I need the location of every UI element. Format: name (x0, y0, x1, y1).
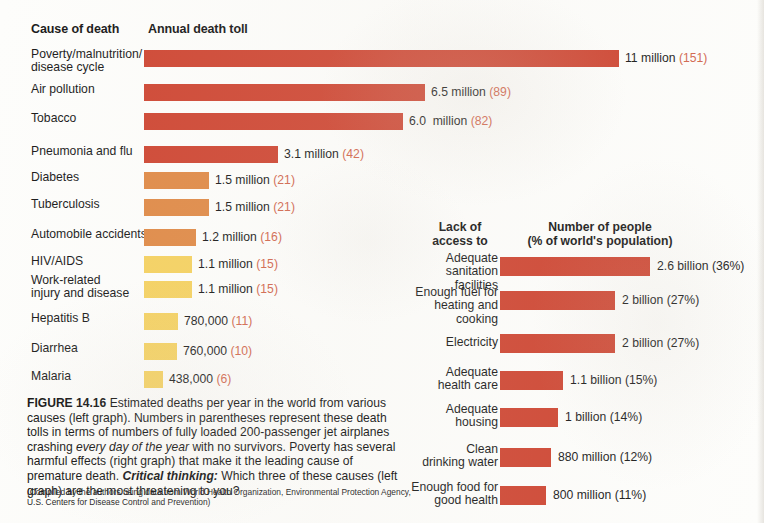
right-chart-value-label: 1.1 billion (15%) (570, 373, 657, 387)
right-chart-bar (500, 486, 546, 505)
left-chart-value-label: 760,000 (10) (183, 344, 252, 358)
value-amount: 1.5 million (215, 173, 273, 187)
value-amount: 1.1 million (198, 282, 256, 296)
right-chart-category-label: Adequate housing (410, 403, 498, 430)
left-chart-value-label: 11 million (151) (625, 51, 707, 65)
left-chart-bar (144, 343, 177, 360)
value-parenthetical: (15) (256, 282, 278, 296)
right-chart-category-label: Enough food for good health (410, 481, 498, 508)
right-chart-category-label: Clean drinking water (410, 443, 498, 470)
value-amount: 1.2 million (202, 230, 260, 244)
left-chart-value-label: 1.5 million (21) (215, 200, 295, 214)
value-parenthetical: (82) (471, 114, 493, 128)
value-parenthetical: (6) (216, 372, 231, 386)
left-chart-value-label: 1.5 million (21) (215, 173, 295, 187)
left-chart-value-label: 1.1 million (15) (198, 282, 278, 296)
value-parenthetical: (151) (679, 51, 707, 65)
left-chart-bar (144, 371, 163, 388)
value-parenthetical: (10) (230, 344, 252, 358)
left-chart-bar (144, 113, 403, 130)
right-chart-header-value: Number of people (% of world's populatio… (506, 221, 694, 248)
value-amount: 11 million (625, 51, 679, 65)
right-chart-bar (500, 408, 558, 427)
left-chart-value-label: 3.1 million (42) (284, 147, 364, 161)
value-amount: 760,000 (183, 344, 230, 358)
right-chart-value-label: 880 million (12%) (558, 450, 652, 464)
left-chart-bar (144, 50, 619, 67)
caption-emphasis: every day of the year (76, 440, 189, 454)
left-chart-header-category: Cause of death (31, 22, 119, 36)
right-chart-bar (500, 291, 615, 310)
value-parenthetical: (15) (256, 257, 278, 271)
left-chart-bar (144, 84, 425, 101)
left-chart-value-label: 6.5 million (89) (431, 85, 511, 99)
left-chart-value-label: 438,000 (6) (169, 372, 231, 386)
critical-thinking-label: Critical thinking: (122, 469, 217, 483)
value-amount: 780,000 (184, 314, 231, 328)
left-chart-value-label: 1.2 million (16) (202, 230, 282, 244)
right-chart-value-label: 800 million (11%) (553, 488, 646, 502)
left-chart-bar (144, 256, 192, 273)
value-parenthetical: (16) (260, 230, 282, 244)
figure-number: FIGURE 14.16 (27, 396, 106, 410)
left-chart-bar (144, 199, 209, 216)
left-chart-header-value: Annual death toll (148, 22, 248, 36)
left-chart-value-label: 6.0 million (82) (409, 114, 492, 128)
right-chart-bar (500, 371, 563, 390)
right-chart-value-label: 2 billion (27%) (622, 293, 699, 307)
left-chart-value-label: 1.1 million (15) (198, 257, 278, 271)
right-chart-category-label: Enough fuel for heating and cooking (410, 286, 498, 326)
page-edge-shadow (757, 0, 764, 523)
value-parenthetical: (21) (273, 200, 295, 214)
value-parenthetical: (11) (231, 314, 252, 328)
left-chart-bar (144, 146, 278, 163)
left-chart-bar (144, 229, 196, 246)
figure-caption: FIGURE 14.16 Estimated deaths per year i… (27, 396, 409, 498)
value-parenthetical: (89) (489, 85, 511, 99)
left-chart-bar (144, 172, 209, 189)
value-amount: 438,000 (169, 372, 216, 386)
value-amount: 6.0 million (409, 114, 471, 128)
figure-source: (Compiled by the authors using data from… (27, 487, 417, 508)
value-amount: 1.1 million (198, 257, 256, 271)
value-parenthetical: (42) (342, 147, 364, 161)
right-chart-value-label: 1 billion (14%) (565, 410, 642, 424)
left-chart-bar (144, 313, 178, 330)
right-chart-value-label: 2 billion (27%) (622, 336, 699, 350)
right-chart-value-label: 2.6 billion (36%) (657, 259, 744, 273)
value-parenthetical: (21) (273, 173, 295, 187)
right-chart-header-category: Lack of access to (424, 221, 496, 248)
right-chart-category-label: Adequate health care (410, 366, 498, 393)
value-amount: 1.5 million (215, 200, 273, 214)
left-chart-bar (144, 281, 192, 298)
right-chart-bar (500, 334, 615, 353)
value-amount: 3.1 million (284, 147, 342, 161)
right-chart-bar (500, 448, 551, 467)
right-chart-bar (500, 257, 650, 276)
right-chart-category-label: Electricity (410, 336, 498, 349)
left-chart-value-label: 780,000 (11) (184, 314, 252, 328)
value-amount: 6.5 million (431, 85, 489, 99)
